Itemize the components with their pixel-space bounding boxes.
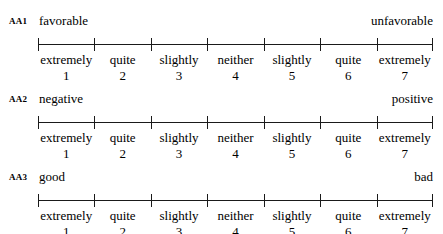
scale-point-label: slightly — [264, 52, 320, 68]
scale-point-label: slightly — [151, 52, 207, 68]
scale-axis — [38, 38, 433, 52]
axis-tick[interactable] — [151, 38, 152, 51]
scale-point-label: quite — [94, 130, 150, 146]
scale-point-label: slightly — [264, 208, 320, 224]
right-anchor-label: unfavorable — [371, 13, 433, 29]
scale-point-7[interactable]: extremely7 — [377, 208, 433, 234]
scale-point-7[interactable]: extremely7 — [377, 130, 433, 160]
scale-point-3[interactable]: slightly3 — [151, 130, 207, 160]
axis-tick[interactable] — [432, 116, 433, 129]
axis-tick[interactable] — [207, 116, 208, 129]
scale-point-number: 5 — [264, 224, 320, 234]
scale-point-label: quite — [320, 208, 376, 224]
scale-point-2[interactable]: quite2 — [94, 130, 150, 160]
scale-point-label: slightly — [151, 208, 207, 224]
axis-tick[interactable] — [432, 194, 433, 207]
axis-line — [38, 200, 433, 201]
axis-tick[interactable] — [94, 194, 95, 207]
axis-tick[interactable] — [320, 38, 321, 51]
scale-point-row: extremely1quite2slightly3neither4slightl… — [38, 130, 433, 160]
left-anchor-label: favorable — [39, 13, 88, 29]
axis-tick[interactable] — [377, 194, 378, 207]
axis-tick[interactable] — [38, 116, 39, 129]
item-code: AA3 — [9, 172, 27, 183]
axis-tick[interactable] — [377, 38, 378, 51]
scale-point-row: extremely1quite2slightly3neither4slightl… — [38, 52, 433, 82]
scale-point-label: quite — [320, 130, 376, 146]
scale-point-2[interactable]: quite2 — [94, 52, 150, 82]
scale-point-4[interactable]: neither4 — [207, 130, 263, 160]
scale-point-2[interactable]: quite2 — [94, 208, 150, 234]
scale-point-5[interactable]: slightly5 — [264, 130, 320, 160]
scale-point-3[interactable]: slightly3 — [151, 208, 207, 234]
scale-point-label: extremely — [38, 130, 94, 146]
scale-axis — [38, 116, 433, 130]
right-anchor-label: positive — [392, 91, 433, 107]
right-anchor-label: bad — [414, 169, 433, 185]
scale-point-number: 6 — [320, 68, 376, 83]
axis-tick[interactable] — [264, 194, 265, 207]
scale-point-number: 4 — [207, 146, 263, 161]
axis-tick[interactable] — [38, 38, 39, 51]
scale-point-number: 2 — [94, 146, 150, 161]
scale-point-label: slightly — [151, 130, 207, 146]
scale-point-number: 7 — [377, 146, 433, 161]
axis-line — [38, 44, 433, 45]
scale-point-number: 5 — [264, 68, 320, 83]
scale-point-number: 6 — [320, 146, 376, 161]
axis-tick[interactable] — [432, 38, 433, 51]
scale-point-1[interactable]: extremely1 — [38, 130, 94, 160]
scale-point-3[interactable]: slightly3 — [151, 52, 207, 82]
item-code: AA2 — [9, 94, 27, 105]
scale-point-label: neither — [207, 130, 263, 146]
scale-point-number: 2 — [94, 68, 150, 83]
scale-point-5[interactable]: slightly5 — [264, 208, 320, 234]
scale-point-number: 3 — [151, 224, 207, 234]
axis-tick[interactable] — [38, 194, 39, 207]
scale-point-1[interactable]: extremely1 — [38, 52, 94, 82]
scale-point-number: 1 — [38, 146, 94, 161]
axis-tick[interactable] — [320, 116, 321, 129]
scale-point-6[interactable]: quite6 — [320, 52, 376, 82]
scale-axis — [38, 194, 433, 208]
scale-point-number: 3 — [151, 146, 207, 161]
scale-point-number: 3 — [151, 68, 207, 83]
axis-tick[interactable] — [320, 194, 321, 207]
axis-tick[interactable] — [264, 116, 265, 129]
scale-point-5[interactable]: slightly5 — [264, 52, 320, 82]
scale-point-number: 1 — [38, 224, 94, 234]
axis-tick[interactable] — [151, 194, 152, 207]
scale-point-row: extremely1quite2slightly3neither4slightl… — [38, 208, 433, 234]
scale-point-label: quite — [94, 52, 150, 68]
left-anchor-label: good — [39, 169, 65, 185]
scale-point-7[interactable]: extremely7 — [377, 52, 433, 82]
axis-tick[interactable] — [207, 194, 208, 207]
scale-point-number: 7 — [377, 68, 433, 83]
scale-point-label: extremely — [377, 208, 433, 224]
scale-point-4[interactable]: neither4 — [207, 208, 263, 234]
left-anchor-label: negative — [39, 91, 83, 107]
scale-point-6[interactable]: quite6 — [320, 130, 376, 160]
scale-point-label: neither — [207, 52, 263, 68]
scale-point-1[interactable]: extremely1 — [38, 208, 94, 234]
axis-tick[interactable] — [151, 116, 152, 129]
anchor-row: negativepositive — [38, 91, 433, 107]
scale-point-4[interactable]: neither4 — [207, 52, 263, 82]
scale-point-number: 4 — [207, 68, 263, 83]
item-code: AA1 — [9, 16, 27, 27]
axis-tick[interactable] — [94, 116, 95, 129]
scale-point-number: 5 — [264, 146, 320, 161]
axis-tick[interactable] — [94, 38, 95, 51]
scale-item-aa1: AA1favorableunfavorableextremely1quite2s… — [0, 8, 443, 86]
anchor-row: goodbad — [38, 169, 433, 185]
axis-line — [38, 122, 433, 123]
scale-point-number: 4 — [207, 224, 263, 234]
axis-tick[interactable] — [264, 38, 265, 51]
scale-point-number: 1 — [38, 68, 94, 83]
axis-tick[interactable] — [207, 38, 208, 51]
scale-point-6[interactable]: quite6 — [320, 208, 376, 234]
scale-point-number: 6 — [320, 224, 376, 234]
scale-point-number: 2 — [94, 224, 150, 234]
axis-tick[interactable] — [377, 116, 378, 129]
scale-point-number: 7 — [377, 224, 433, 234]
